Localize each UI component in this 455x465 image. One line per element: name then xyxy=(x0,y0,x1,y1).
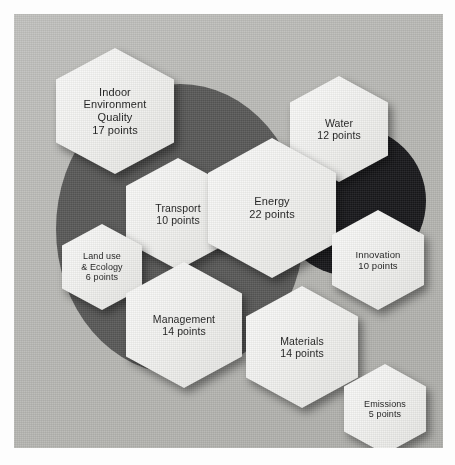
hex-energy[interactable]: Energy 22 points xyxy=(208,138,336,278)
hex-indoor-environment-quality[interactable]: Indoor Environment Quality 17 points xyxy=(56,48,174,174)
hex-label-innovation: Innovation 10 points xyxy=(352,249,405,271)
hex-label-emissions: Emissions 5 points xyxy=(360,399,410,420)
hex-label-indoor-environment-quality: Indoor Environment Quality 17 points xyxy=(80,86,151,137)
diagram-image: Indoor Environment Quality 17 points Wat… xyxy=(0,0,455,465)
hex-label-energy: Energy 22 points xyxy=(245,195,299,221)
hex-label-materials: Materials 14 points xyxy=(276,335,328,359)
diagram-panel: Indoor Environment Quality 17 points Wat… xyxy=(14,14,443,448)
hex-label-management: Management 14 points xyxy=(149,313,219,337)
hex-label-land-use-and-ecology: Land use & Ecology 6 points xyxy=(77,251,126,282)
hex-label-transport: Transport 10 points xyxy=(151,202,204,226)
hex-management[interactable]: Management 14 points xyxy=(126,262,242,388)
hex-materials[interactable]: Materials 14 points xyxy=(246,286,358,408)
hex-emissions[interactable]: Emissions 5 points xyxy=(344,364,426,448)
